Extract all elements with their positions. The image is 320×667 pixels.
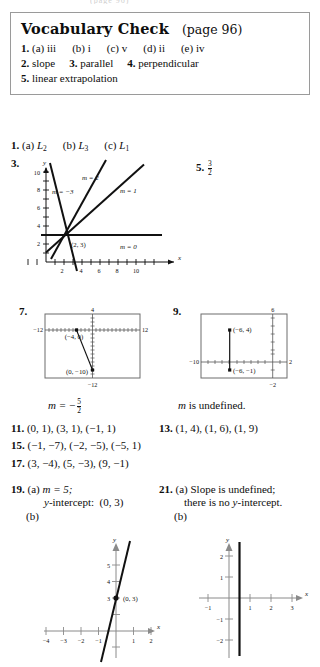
vocab-4-number: 4.	[127, 57, 135, 69]
answer-19-number: 19.	[11, 483, 25, 495]
figure-21b-svg: −1 1 2 3 2 1 −1 −2 x y	[172, 538, 312, 666]
figure-9-xmax-label: 2	[289, 358, 292, 365]
figure-3-ytick-8: 8	[37, 186, 40, 193]
vocabulary-line-2: 2. slope3. parallel4. perpendicular	[21, 56, 300, 71]
figure-3-label-m0: m = 0	[120, 243, 137, 251]
answer-1a-label: (a)	[22, 139, 34, 151]
answer-9-number: 9.	[173, 305, 181, 317]
answer-3-number: 3.	[11, 157, 19, 169]
answer-17: 17. (3, −4), (5, −3), (9, −1)	[11, 456, 129, 470]
answer-19-slope: m = 5;	[42, 483, 72, 495]
figure-19b-xtick-neg2: −2	[78, 637, 85, 644]
figure-19b-point	[113, 595, 118, 600]
answer-21-line2: there is no y-intercept.	[184, 495, 282, 509]
figure-21b-ylabel: y	[225, 538, 230, 544]
vocab-1d-label: (d)	[143, 42, 156, 54]
figure-21b-xtick-3: 3	[290, 604, 293, 611]
answer-7-slope: m = − 5 2	[48, 398, 82, 415]
answer-11-number: 11.	[11, 422, 24, 434]
figure-7-point-2	[91, 368, 94, 371]
figure-19b-ylabel: y	[112, 538, 117, 544]
figure-3-xtick-6: 6	[97, 267, 100, 274]
figure-19b-x-arrow	[148, 628, 155, 634]
vocabulary-title-row: Vocabulary Check (page 96)	[21, 20, 300, 37]
answer-5-number: 5.	[196, 161, 204, 173]
figure-19b-ytick-5: 5	[107, 562, 110, 569]
figure-3-axes	[46, 168, 174, 262]
answer-1-number: 1.	[11, 139, 19, 151]
answer-19-intercept: y-intercept: (0, 3)	[44, 495, 123, 509]
answer-19: 19. (a) m = 5;	[11, 482, 73, 496]
figure-21b-ytick-1: 1	[220, 574, 223, 581]
vocab-3-number: 3.	[69, 57, 77, 69]
figure-7-ymin-label: −12	[88, 381, 98, 388]
figure-3-point-label: (2, 3)	[71, 241, 86, 249]
answer-15-value: (−1, −7), (−2, −5), (−5, 1)	[28, 439, 142, 451]
vocabulary-line-3: 5. linear extrapolation	[21, 71, 300, 86]
answer-1b-label: (b)	[63, 139, 76, 151]
figure-3-ytick-4: 4	[37, 222, 40, 229]
figure-19b-xtick-neg1: −1	[95, 637, 102, 644]
answer-21b-label: (b)	[174, 509, 187, 523]
answer-21-number: 21.	[159, 483, 173, 495]
figure-9-point-1	[228, 328, 231, 331]
figure-21b-xtick-1: 1	[248, 604, 251, 611]
answer-5: 5. 3 2	[196, 160, 213, 177]
vocab-2-value: slope	[32, 57, 55, 69]
answer-17-number: 17.	[11, 457, 25, 469]
figure-21b-y-arrow	[226, 543, 233, 551]
figure-3-ytick-10: 10	[34, 169, 40, 176]
vocab-1c-value: v	[122, 42, 128, 54]
figure-19b-y-arrow	[113, 543, 120, 551]
answer-19b-label: (b)	[26, 509, 39, 523]
answer-7-fraction: 5 2	[77, 398, 81, 415]
answer-1c-value: L1	[119, 139, 129, 151]
figure-21b-ytick-neg2: −2	[216, 637, 223, 644]
figure-3-svg: 2 4 6 8 10 2 4 6 8 10 x y m = 2 m = 1 m …	[24, 158, 184, 280]
figure-21b: −1 1 2 3 2 1 −1 −2 x y	[172, 538, 312, 666]
figure-3-xtick-10: 10	[133, 267, 139, 274]
vocab-5-value: linear extrapolation	[32, 72, 118, 84]
vocabulary-line-1: 1. (a) iii(b) i(c) v(d) ii(e) iv	[21, 41, 300, 56]
figure-3-ytick-2: 2	[37, 240, 40, 247]
answer-9-note-text: is undefined.	[189, 399, 246, 411]
figure-21b-xlabel: x	[304, 590, 309, 598]
figure-3-x-arrow	[168, 260, 174, 265]
vocab-2-number: 2.	[21, 57, 29, 69]
figure-9-point-1-label: (−6, 4)	[233, 326, 252, 334]
figure-3-xtick-4: 4	[79, 267, 82, 274]
vocab-1e-value: iv	[196, 42, 205, 54]
answer-15-number: 15.	[11, 439, 25, 451]
figure-7-ymax-label: 4	[91, 306, 94, 313]
answer-17-value: (3, −4), (5, −3), (9, −1)	[28, 457, 129, 469]
answer-11-value: (0, 1), (3, 1), (−1, 1)	[27, 422, 116, 434]
figure-3-label-m2: m = 2	[82, 174, 99, 182]
vocabulary-title: Vocabulary Check	[21, 20, 169, 37]
figure-19b-xtick-1: 1	[132, 637, 135, 644]
answer-1c-label: (c)	[104, 139, 116, 151]
figure-3-label-m1: m = 1	[120, 187, 137, 195]
figure-9-ymax-label: 6	[271, 306, 274, 313]
figure-7-xmin-label: −12	[33, 326, 43, 333]
answer-21a-label: (a)	[176, 483, 188, 495]
figure-19b: −4 −3 −2 −1 1 2 3 4 5 x y (0, 3)	[24, 538, 164, 666]
figure-19b-ticks	[46, 565, 151, 647]
vocab-4-value: perpendicular	[138, 57, 198, 69]
answer-19a-label: (a)	[28, 483, 40, 495]
figure-21b-xtick-2: 2	[269, 604, 272, 611]
answer-7-number: 7.	[19, 305, 27, 317]
figure-3-xtick-2: 2	[60, 267, 63, 274]
figure-19b-svg: −4 −3 −2 −1 1 2 3 4 5 x y (0, 3)	[24, 538, 164, 666]
figure-7-point-1-label: (−4, 0)	[65, 333, 84, 341]
figure-19b-ytick-4: 4	[107, 578, 110, 585]
answer-21: 21. (a) Slope is undefined;	[159, 482, 275, 496]
figure-19b-point-label: (0, 3)	[123, 595, 138, 603]
figure-21b-x-arrow	[296, 595, 303, 601]
answer-13: 13. (1, 4), (1, 6), (1, 9)	[159, 421, 258, 435]
figure-9-point-2	[228, 368, 231, 371]
vocab-1-number: 1.	[21, 42, 29, 54]
figure-9-svg: (−6, 4) (−6, −1) −10 2 6 −2	[184, 305, 309, 393]
vocab-5-number: 5.	[21, 72, 29, 84]
answer-21-line1: Slope is undefined;	[190, 483, 275, 495]
answer-9-note: m is undefined.	[178, 398, 246, 412]
